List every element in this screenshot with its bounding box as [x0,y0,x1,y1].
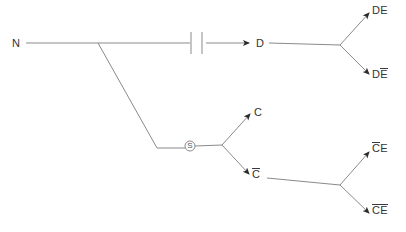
node-label-n: N [12,38,20,49]
switch-node-label: S [184,142,196,150]
node-label-c-bar: C [252,168,260,180]
information-set-bars [191,32,202,54]
node-label-de-text: DE [372,4,388,16]
edge-group-bottom [98,43,369,213]
node-label-cbar-e-c-overlined: C [372,142,380,154]
edge-junction-to-c [222,114,250,145]
edge-d-to-junction [269,43,340,45]
node-label-cbar-e: CE [372,142,388,154]
edge-junction-to-de-bar [340,45,369,74]
edge-junction2-to-cbar-e [340,152,369,185]
node-label-cbar-ebar: CE [372,204,388,216]
edge-switch-to-junction [195,145,222,146]
edge-junction-to-c-bar [222,145,249,174]
node-label-d: D [256,38,264,49]
diagram-svg [0,0,406,232]
diagram-canvas: S N D DE DE C C CE CE [0,0,406,232]
edge-c-bar-to-junction2 [267,178,340,185]
edge-junction2-to-cbar-ebar [340,185,369,213]
edge-branch-diagonal [98,43,157,148]
node-label-de-bar-d: D [372,68,380,80]
node-label-c-bar-overlined: C [252,168,260,180]
edge-group-top [26,13,369,74]
node-label-c: C [254,107,262,118]
node-label-de-bar-e-overlined: E [380,68,388,80]
node-label-de-bar: DE [372,68,388,80]
node-label-de: DE [372,5,388,16]
node-label-cbar-e-e: E [380,142,388,154]
edge-junction-to-de [340,13,369,45]
node-label-cbar-ebar-overlined: CE [372,204,388,216]
